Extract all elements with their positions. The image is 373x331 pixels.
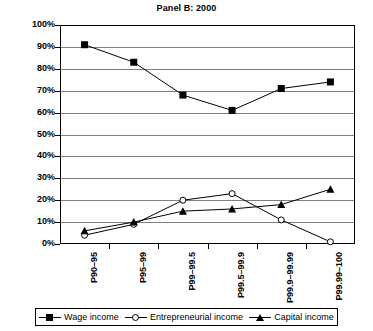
filled-square-marker-icon [39,312,61,322]
legend-label-capital-income: Capital income [274,312,334,322]
legend-label-entrepreneurial-income: Entrepreneurial income [150,312,243,322]
x-axis-tick-mark [208,244,209,249]
gridline [61,135,354,136]
open-circle-marker-icon [125,312,147,322]
chart-legend: Wage income Entrepreneurial income Capit… [35,308,338,326]
y-axis-tick-mark [55,244,60,245]
x-axis-tick-mark [257,244,258,249]
x-axis-tick-label: P90–95 [89,252,99,283]
x-axis-tick-mark [109,244,110,249]
chart-panel-b-2000: Panel B: 2000 100%90%80%70%60%50%40%30%2… [0,0,373,331]
y-axis-tick-label: 100% [11,20,55,29]
gridline [61,69,354,70]
legend-item-entrepreneurial-income: Entrepreneurial income [125,312,243,322]
gridline [61,222,354,223]
filled-triangle-marker-icon [249,312,271,322]
gridline [61,91,354,92]
gridline [61,200,354,201]
y-axis-tick-label: 10% [11,217,55,226]
gridline [61,113,354,114]
y-axis-tick-label: 0% [11,239,55,248]
legend-item-wage-income: Wage income [39,312,119,322]
gridline [61,47,354,48]
x-axis-tick-label: P99.9–99.99 [285,252,295,303]
y-axis-tick-label: 40% [11,151,55,160]
x-axis-tick-label: P99.5–99.9 [236,252,246,298]
x-axis-tick-label: P99.99–100 [334,252,344,301]
y-axis-tick-label: 30% [11,173,55,182]
x-axis-tick-label: P99–99.5 [187,252,197,291]
y-axis-tick-label: 70% [11,86,55,95]
y-axis-tick-label: 20% [11,195,55,204]
y-axis-tick-label: 50% [11,130,55,139]
y-axis-tick-label: 90% [11,42,55,51]
gridline [61,178,354,179]
legend-label-wage-income: Wage income [64,312,119,322]
y-axis-tick-label: 80% [11,64,55,73]
y-axis-tick-label: 60% [11,108,55,117]
gridline [61,156,354,157]
x-axis-tick-mark [158,244,159,249]
plot-area [60,25,355,244]
legend-item-capital-income: Capital income [249,312,334,322]
x-axis-tick-label: P95–99 [138,252,148,283]
chart-title: Panel B: 2000 [0,3,373,14]
x-axis-tick-mark [306,244,307,249]
